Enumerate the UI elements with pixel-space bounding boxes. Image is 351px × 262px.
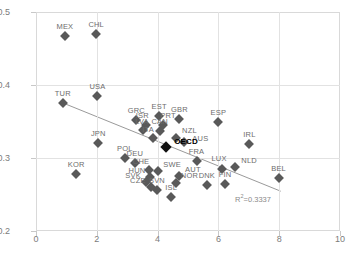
data-point-label: SVN: [149, 176, 165, 185]
data-point-label: LUX: [211, 154, 226, 163]
y-axis-tick-label: 0.3: [0, 153, 10, 163]
y-tick-mark: [31, 158, 36, 159]
x-axis-tick-label: 0: [33, 234, 38, 244]
data-point-label: ESP: [211, 108, 227, 117]
data-point-label: OECD: [174, 137, 198, 146]
data-point-label: CHL: [88, 20, 104, 29]
r-squared-annotation: R2=0.3337: [235, 193, 271, 204]
data-point-label: FIN: [219, 170, 232, 179]
data-point-marker[interactable]: [71, 169, 81, 179]
data-point-label: MEX: [56, 22, 73, 31]
data-point-marker[interactable]: [220, 179, 230, 189]
data-point-label: TUR: [55, 89, 71, 98]
data-point-label: USA: [89, 82, 105, 91]
data-point-label: SWE: [163, 160, 181, 169]
gridline-vertical: [279, 12, 280, 231]
x-axis-tick-label: 4: [155, 234, 160, 244]
data-point-label: BEL: [271, 164, 286, 173]
y-tick-mark: [31, 12, 36, 13]
x-axis-tick-label: 8: [277, 234, 282, 244]
gridline-vertical: [97, 12, 98, 231]
x-axis-tick-label: 10: [335, 234, 345, 244]
data-point-label: ITA: [142, 125, 154, 134]
x-axis-tick-label: 2: [94, 234, 99, 244]
data-point-marker[interactable]: [152, 186, 162, 196]
data-point-label: DNK: [199, 171, 215, 180]
data-point-label: ISL: [165, 183, 177, 192]
data-point-label: FRA: [189, 147, 205, 156]
gridline-horizontal: [36, 85, 340, 86]
data-point-label: CAN: [152, 117, 168, 126]
data-point-label: NLD: [241, 156, 257, 165]
gridline-horizontal: [36, 158, 340, 159]
data-point-marker[interactable]: [166, 192, 176, 202]
data-point-label: JPN: [91, 129, 106, 138]
x-axis-tick-label: 6: [216, 234, 221, 244]
y-axis-tick-label: 0.2: [0, 226, 10, 236]
y-tick-mark: [31, 85, 36, 86]
scatter-chart: MEXCHLTURUSAGRCESTGBRISRPRTLVACANITANZLA…: [0, 0, 351, 262]
data-point-label: NOR: [181, 171, 198, 180]
y-axis-tick-label: 0.4: [0, 80, 10, 90]
data-point-marker[interactable]: [202, 180, 212, 190]
data-point-marker[interactable]: [274, 173, 284, 183]
data-point-label: EST: [152, 102, 167, 111]
data-point-label: KOR: [68, 160, 85, 169]
data-point-label: IRL: [243, 130, 255, 139]
plot-area: MEXCHLTURUSAGRCESTGBRISRPRTLVACANITANZLA…: [36, 12, 340, 231]
data-point-marker[interactable]: [153, 166, 163, 176]
y-axis-tick-label: 0.5: [0, 7, 10, 17]
data-point-label: CZE: [130, 176, 146, 185]
